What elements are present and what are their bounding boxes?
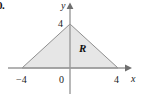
- x-tick-label-negative-4: −4: [16, 74, 27, 85]
- y-axis-arrow-icon: [67, 3, 74, 10]
- region-label-r: R: [78, 42, 86, 54]
- coordinate-plot: y x 4 −4 0 4 R: [0, 0, 141, 96]
- x-axis-arrow-icon: [125, 65, 132, 72]
- figure-container: 0. y x 4 −4 0 4 R: [0, 0, 141, 96]
- x-tick-label-4: 4: [114, 74, 119, 85]
- y-axis-label: y: [60, 0, 66, 11]
- y-tick-label-4: 4: [58, 18, 63, 29]
- origin-label: 0: [59, 74, 64, 85]
- x-axis-label: x: [130, 73, 136, 84]
